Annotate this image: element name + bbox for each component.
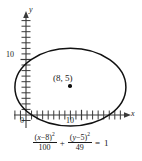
- equation-term-1-numerator: (x−8)2: [33, 134, 57, 143]
- equation-expression: (x−8)2 100 + (y−5)2 49 = 1: [33, 134, 110, 152]
- equation-right-hand-side: 1: [103, 138, 110, 148]
- equation-term-1-value: 8: [45, 133, 49, 142]
- x-axis-tick-label-10: 10: [66, 117, 74, 125]
- y-axis-label: y: [29, 6, 33, 14]
- equation-term-1-exponent: 2: [52, 131, 55, 137]
- equation-term-2-exponent: 2: [87, 131, 90, 137]
- center-point-label: (8, 5): [53, 74, 73, 83]
- equation-term-2-value: 5: [81, 133, 85, 142]
- x-axis-arrow-icon: [124, 112, 131, 118]
- equation-term-2-denominator: 49: [76, 143, 84, 152]
- ellipse-figure: y x 10 10 0 (8, 5) (x−8)2 100 + (y−5)2 4…: [0, 0, 142, 161]
- y-axis-arrow-icon: [23, 11, 29, 18]
- center-point-dot: [68, 84, 72, 88]
- ellipse-equation: (x−8)2 100 + (y−5)2 49 = 1: [0, 132, 142, 152]
- equation-plus-operator: +: [59, 138, 66, 148]
- y-axis-tick-label-10: 10: [6, 51, 14, 59]
- x-axis-label: x: [131, 110, 135, 118]
- equation-term-1: (x−8)2 100: [33, 134, 57, 152]
- origin-label: 0: [20, 117, 24, 125]
- equation-term-1-denominator: 100: [39, 143, 51, 152]
- equation-term-2: (y−5)2 49: [68, 134, 92, 152]
- equation-term-2-numerator: (y−5)2: [68, 134, 92, 143]
- equation-equals-sign: =: [94, 138, 101, 148]
